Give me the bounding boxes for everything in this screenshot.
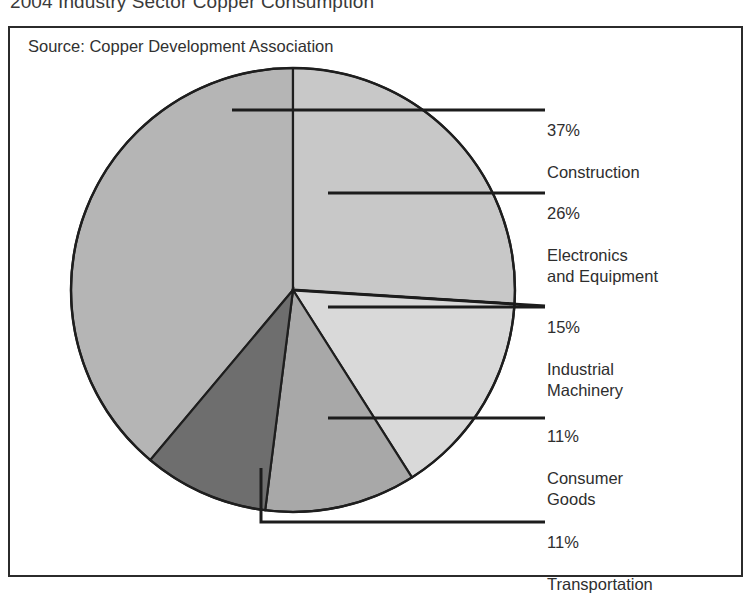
callout-construction-label: Construction <box>547 162 640 183</box>
callout-transportation-percent: 11% <box>547 532 653 553</box>
callout-industrial-machinery-percent: 15% <box>547 317 623 338</box>
callout-electronics-percent: 26% <box>547 203 658 224</box>
source-caption: Source: Copper Development Association <box>28 36 333 56</box>
callout-transportation: 11% Transportation <box>547 511 653 597</box>
callout-transportation-label: Transportation <box>547 574 653 595</box>
page-title: 2004 Industry Sector Copper Consumption <box>10 0 610 16</box>
callout-consumer-goods-percent: 11% <box>547 426 623 447</box>
callout-electronics: 26% Electronics and Equipment <box>547 182 658 308</box>
callout-industrial-machinery: 15% Industrial Machinery <box>547 296 623 422</box>
callout-industrial-machinery-label: Industrial Machinery <box>547 359 623 401</box>
callout-construction-percent: 37% <box>547 120 640 141</box>
callout-consumer-goods-label: Consumer Goods <box>547 468 623 510</box>
callout-electronics-label: Electronics and Equipment <box>547 245 658 287</box>
